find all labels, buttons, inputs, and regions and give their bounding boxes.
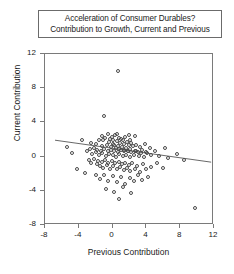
y-tick-label: 12 <box>20 49 36 57</box>
plot-area <box>44 53 213 224</box>
y-axis-label: Current Contribution <box>12 43 22 163</box>
x-tick-label: -4 <box>68 231 88 239</box>
scatter-point <box>127 133 131 137</box>
scatter-point <box>102 114 106 118</box>
scatter-point <box>193 206 197 210</box>
y-tick-label: -8 <box>20 220 36 228</box>
chart-title-line-2: Contribution to Growth, Current and Prev… <box>50 24 209 35</box>
y-tick-mark <box>40 53 44 54</box>
scatter-point <box>104 187 108 191</box>
scatter-point <box>136 173 140 177</box>
scatter-point <box>75 167 79 171</box>
scatter-point <box>140 178 144 182</box>
y-tick-mark <box>40 121 44 122</box>
y-tick-label: 4 <box>20 117 36 125</box>
x-tick-mark <box>145 224 146 228</box>
scatter-point <box>123 135 127 139</box>
scatter-point <box>143 142 147 146</box>
scatter-point <box>106 132 110 136</box>
scatter-point <box>135 164 139 168</box>
x-tick-mark <box>213 224 214 228</box>
scatter-point <box>141 162 145 166</box>
scatter-point <box>102 173 106 177</box>
chart-screenshot: Acceleration of Consumer Durables? Contr… <box>0 0 234 274</box>
x-axis-label: Previous Contribution <box>44 247 213 257</box>
scatter-point <box>175 152 179 156</box>
scatter-point <box>70 151 74 155</box>
x-tick-label: 4 <box>135 231 155 239</box>
scatter-point <box>144 167 148 171</box>
scatter-point <box>153 149 157 153</box>
y-tick-mark <box>40 156 44 157</box>
scatter-point <box>116 69 120 73</box>
y-tick-label: 8 <box>20 83 36 91</box>
scatter-point <box>89 161 93 165</box>
scatter-point <box>146 175 150 179</box>
scatter-point <box>117 197 121 201</box>
scatter-point <box>142 155 146 159</box>
scatter-point <box>83 171 87 175</box>
x-tick-mark <box>179 224 180 228</box>
x-tick-label: 12 <box>203 231 223 239</box>
scatter-point <box>65 145 69 149</box>
x-tick-mark <box>44 224 45 228</box>
scatter-point <box>132 153 136 157</box>
scatter-point <box>155 161 159 165</box>
x-tick-label: 0 <box>102 231 122 239</box>
scatter-point <box>133 134 137 138</box>
scatter-point <box>103 136 107 140</box>
scatter-point <box>166 156 170 160</box>
scatter-point <box>121 185 125 189</box>
scatter-point <box>149 153 153 157</box>
scatter-point <box>128 169 132 173</box>
scatter-point <box>89 141 93 145</box>
scatter-point <box>128 176 132 180</box>
scatter-point <box>130 161 134 165</box>
y-tick-mark <box>40 190 44 191</box>
scatter-point <box>132 179 136 183</box>
scatter-point <box>148 146 152 150</box>
x-tick-label: -8 <box>34 231 54 239</box>
chart-title-line-1: Acceleration of Consumer Durables? <box>65 13 195 24</box>
scatter-point <box>182 158 186 162</box>
scatter-point <box>161 166 165 170</box>
y-tick-label: 0 <box>20 152 36 160</box>
scatter-point <box>163 146 167 150</box>
x-tick-mark <box>112 224 113 228</box>
scatter-point <box>112 190 116 194</box>
scatter-point <box>119 175 123 179</box>
y-tick-mark <box>40 87 44 88</box>
scatter-point <box>106 179 110 183</box>
x-tick-label: 8 <box>169 231 189 239</box>
scatter-point <box>98 177 102 181</box>
scatter-point <box>157 154 161 158</box>
scatter-point <box>94 173 98 177</box>
scatter-point <box>128 155 132 159</box>
y-tick-label: -4 <box>20 186 36 194</box>
scatter-point <box>129 191 133 195</box>
scatter-point <box>115 180 119 184</box>
scatter-point <box>149 165 153 169</box>
chart-title-box: Acceleration of Consumer Durables? Contr… <box>38 10 222 38</box>
scatter-point <box>80 138 84 142</box>
scatter-point <box>111 174 115 178</box>
x-tick-mark <box>78 224 79 228</box>
scatter-points-layer <box>45 54 212 223</box>
